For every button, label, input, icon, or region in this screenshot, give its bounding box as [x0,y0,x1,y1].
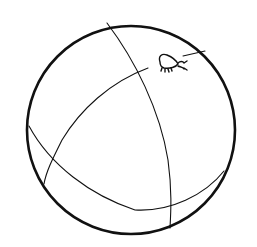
ball-outline [27,26,235,234]
bug-icon [159,54,187,72]
ball-seam-equator [29,126,224,210]
ball-drawing [0,0,257,247]
ball-seam-left [44,68,148,184]
ball-seam-meridian [107,23,171,228]
